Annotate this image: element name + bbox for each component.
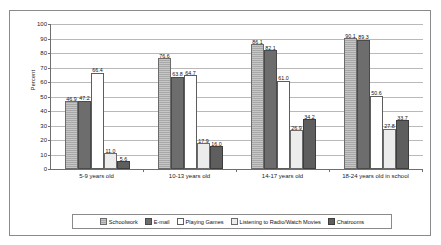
y-tick-label: 40 xyxy=(40,108,47,114)
bar-value-label: 63.8 xyxy=(172,72,182,77)
bar[interactable]: 90.1 xyxy=(344,38,357,169)
bar[interactable]: 26.9 xyxy=(290,130,303,169)
bar[interactable]: 63.8 xyxy=(171,77,184,170)
y-tick-label: 20 xyxy=(40,137,47,143)
x-axis-label: 18-24 years old in school xyxy=(329,173,422,179)
bar-slot: 47.2 xyxy=(78,24,91,169)
legend-item[interactable]: Chatrooms xyxy=(328,218,364,225)
bar-group: 46.947.266.411.05.6 xyxy=(51,24,144,169)
bar[interactable]: 89.3 xyxy=(357,40,370,169)
y-axis-title: Percent xyxy=(30,50,36,110)
legend-swatch-icon xyxy=(145,218,152,225)
y-tick-label: 10 xyxy=(40,152,47,158)
chart-legend: SchoolworkE-mailPlaying GamesListening t… xyxy=(72,214,392,229)
bar-value-label: 11.0 xyxy=(106,149,116,154)
bar-slot: 76.6 xyxy=(158,24,171,169)
bar[interactable]: 47.2 xyxy=(78,101,91,169)
legend-label: Schoolwork xyxy=(109,219,138,225)
legend-item[interactable]: E-mail xyxy=(145,218,170,225)
legend-item[interactable]: Listening to Radio/Watch Movies xyxy=(231,218,321,225)
bar-slot: 26.9 xyxy=(290,24,303,169)
bar[interactable]: 34.2 xyxy=(303,119,316,169)
legend-swatch-icon xyxy=(100,218,107,225)
bar-slot: 34.2 xyxy=(303,24,316,169)
legend-label: Chatrooms xyxy=(337,219,364,225)
bar[interactable]: 11.0 xyxy=(104,153,117,169)
bar[interactable]: 27.8 xyxy=(383,129,396,169)
legend-swatch-icon xyxy=(328,218,335,225)
bar[interactable]: 64.7 xyxy=(184,75,197,169)
bar-slot: 61.0 xyxy=(277,24,290,169)
y-tick-label: 60 xyxy=(40,79,47,85)
legend-label: E-mail xyxy=(154,219,170,225)
bar-value-label: 34.2 xyxy=(304,115,314,120)
x-axis-label: 5-9 years old xyxy=(50,173,143,179)
bar-slot: 17.9 xyxy=(197,24,210,169)
bar-slot: 90.1 xyxy=(344,24,357,169)
bar[interactable]: 5.6 xyxy=(117,161,130,169)
bar-value-label: 27.8 xyxy=(384,124,394,129)
bar-value-label: 33.7 xyxy=(397,116,407,121)
y-tick-label: 70 xyxy=(40,65,47,71)
bar-slot: 33.7 xyxy=(396,24,409,169)
x-axis-label: 10-13 years old xyxy=(143,173,236,179)
legend-swatch-icon xyxy=(231,218,238,225)
bar-value-label: 16.0 xyxy=(211,142,221,147)
bar[interactable]: 50.6 xyxy=(370,96,383,169)
bar-slot: 46.9 xyxy=(65,24,78,169)
bar[interactable]: 76.6 xyxy=(158,58,171,169)
bar-slot: 27.8 xyxy=(383,24,396,169)
bar-value-label: 50.6 xyxy=(371,91,381,96)
y-tick-label: 80 xyxy=(40,50,47,56)
bar-value-label: 17.9 xyxy=(198,139,208,144)
bar[interactable]: 33.7 xyxy=(396,120,409,169)
chart-frame: Percent 0102030405060708090100 46.947.26… xyxy=(9,10,431,236)
bar[interactable]: 46.9 xyxy=(65,101,78,169)
bar-value-label: 76.6 xyxy=(159,54,169,59)
bar-value-label: 47.2 xyxy=(79,96,89,101)
bar-slot: 66.4 xyxy=(91,24,104,169)
bar[interactable]: 66.4 xyxy=(91,73,104,169)
y-tick-label: 0 xyxy=(44,166,47,172)
bar-slot: 64.7 xyxy=(184,24,197,169)
bar-value-label: 64.7 xyxy=(185,71,195,76)
y-tick-label: 50 xyxy=(40,94,47,100)
bar-value-label: 66.4 xyxy=(92,68,102,73)
bar-value-label: 90.1 xyxy=(345,34,355,39)
y-tick-label: 100 xyxy=(37,21,47,27)
legend-label: Playing Games xyxy=(186,219,224,225)
bar-group: 76.663.864.717.916.0 xyxy=(144,24,237,169)
bar-value-label: 89.3 xyxy=(358,35,368,40)
bar-value-label: 26.9 xyxy=(291,126,301,131)
bar-group: 90.189.350.627.833.7 xyxy=(330,24,423,169)
x-axis-labels: 5-9 years old10-13 years old14-17 years … xyxy=(50,173,422,179)
bar-slot: 5.6 xyxy=(117,24,130,169)
chart-page: Percent 0102030405060708090100 46.947.26… xyxy=(0,0,441,245)
bar-value-label: 61.0 xyxy=(278,76,288,81)
x-axis-label: 14-17 years old xyxy=(236,173,329,179)
bar-groups: 46.947.266.411.05.676.663.864.717.916.08… xyxy=(51,24,423,169)
bar[interactable]: 61.0 xyxy=(277,81,290,169)
bar-value-label: 5.6 xyxy=(120,157,127,162)
y-tick-label: 30 xyxy=(40,123,47,129)
bar[interactable]: 82.1 xyxy=(264,50,277,169)
bar[interactable]: 86.1 xyxy=(251,44,264,169)
bar-slot: 50.6 xyxy=(370,24,383,169)
y-tick-label: 90 xyxy=(40,36,47,42)
legend-item[interactable]: Schoolwork xyxy=(100,218,138,225)
bar-value-label: 82.1 xyxy=(265,46,275,51)
plot-area: 0102030405060708090100 46.947.266.411.05… xyxy=(50,24,423,170)
bar-slot: 86.1 xyxy=(251,24,264,169)
bar-slot: 11.0 xyxy=(104,24,117,169)
bar-group: 86.182.161.026.934.2 xyxy=(237,24,330,169)
bar-value-label: 46.9 xyxy=(66,97,76,102)
legend-item[interactable]: Playing Games xyxy=(177,218,224,225)
bar[interactable]: 17.9 xyxy=(197,143,210,169)
bar-value-label: 86.1 xyxy=(252,40,262,45)
bar-slot: 63.8 xyxy=(171,24,184,169)
bar-slot: 82.1 xyxy=(264,24,277,169)
bar[interactable]: 16.0 xyxy=(210,146,223,169)
legend-swatch-icon xyxy=(177,218,184,225)
bar-slot: 89.3 xyxy=(357,24,370,169)
bar-slot: 16.0 xyxy=(210,24,223,169)
